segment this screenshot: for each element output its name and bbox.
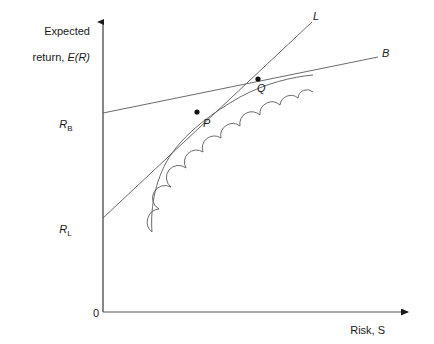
y-axis-title-line1: Expected: [44, 25, 90, 37]
r-lend-base: R: [59, 223, 67, 235]
capital-market-line-b: [103, 57, 378, 113]
y-axis-title: Expected return, E(R): [8, 12, 90, 77]
r-lend-subscript: L: [67, 229, 71, 238]
x-axis-title-text: Risk, S: [350, 324, 385, 336]
origin-label: 0: [93, 307, 99, 320]
point-q-label: Q: [257, 82, 266, 95]
y-axis-title-line2: return,: [33, 51, 68, 63]
point-p-marker: [194, 109, 199, 114]
portfolio-theory-chart: Expected return, E(R) Risk, S RB RL 0 L …: [0, 0, 434, 344]
r-borrow-subscript: B: [67, 124, 72, 133]
r-borrow-base: R: [59, 118, 67, 130]
y-axis-title-symbol: E(R): [67, 51, 90, 63]
point-q-marker: [255, 76, 260, 81]
y-intercept-label-lend: RL: [47, 210, 72, 253]
point-p-label: P: [203, 117, 210, 130]
line-l-label: L: [313, 10, 319, 23]
x-axis-title: Risk, S: [338, 311, 416, 344]
y-intercept-label-borrow: RB: [47, 105, 73, 148]
line-b-label: B: [382, 47, 389, 60]
opportunity-set-scalloped-boundary: [147, 90, 313, 232]
